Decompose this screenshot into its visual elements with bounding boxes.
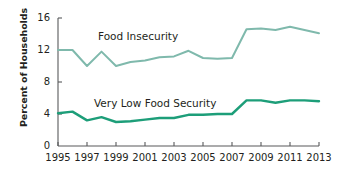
series-label-very-low-food-security: Very Low Food Security bbox=[92, 97, 218, 109]
series-label-food-insecurity: Food Insecurity bbox=[96, 30, 180, 42]
plot-area bbox=[0, 0, 339, 171]
line-chart: Percent of Households 16 12 8 4 0 1995 1… bbox=[0, 0, 339, 171]
